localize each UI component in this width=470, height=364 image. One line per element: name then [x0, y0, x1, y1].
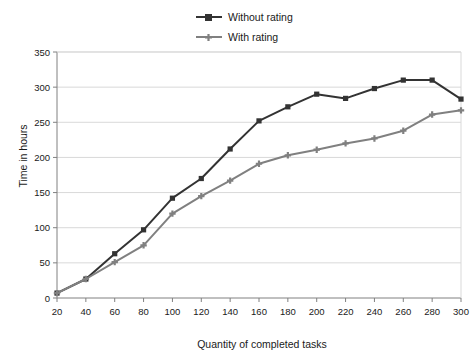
legend-item-without-rating: Without rating: [196, 10, 293, 23]
x-tick-label: 200: [309, 306, 325, 317]
y-tick-label: 100: [34, 222, 50, 233]
x-tick-label: 260: [395, 306, 411, 317]
y-tick-label: 50: [39, 257, 50, 268]
chart-container: Without rating With rating Time in hours…: [0, 0, 470, 364]
data-point-marker: [228, 146, 233, 151]
legend-label-with-rating: With rating: [228, 31, 278, 43]
data-point-marker: [343, 96, 348, 101]
cross-marker-icon: [205, 34, 212, 41]
x-tick-labels-group: 2040608010012014016018020022024026028030…: [52, 306, 469, 317]
data-point-marker: [430, 78, 435, 83]
x-tick-label: 280: [424, 306, 440, 317]
square-marker-icon: [205, 14, 212, 21]
y-tick-label: 300: [34, 82, 50, 93]
y-axis-title: Time in hours: [17, 86, 29, 226]
plot-svg: 050100150200250300350 204060801001201401…: [0, 0, 470, 364]
data-point-marker: [199, 176, 204, 181]
data-point-marker: [372, 86, 377, 91]
chart-legend: Without rating With rating: [196, 10, 293, 43]
x-tick-label: 20: [52, 306, 63, 317]
x-tick-label: 80: [138, 306, 149, 317]
data-point-marker: [314, 146, 320, 152]
data-point-marker: [314, 92, 319, 97]
x-tick-label: 140: [222, 306, 238, 317]
data-point-marker: [458, 96, 463, 101]
x-tick-label: 240: [366, 306, 382, 317]
x-axis-title: Quantity of completed tasks: [57, 338, 467, 350]
x-tick-label: 120: [193, 306, 209, 317]
y-tick-label: 150: [34, 187, 50, 198]
legend-item-with-rating: With rating: [196, 30, 293, 43]
data-point-marker: [256, 118, 261, 123]
y-tick-label: 200: [34, 152, 50, 163]
data-series-group: [54, 78, 464, 297]
x-tick-label: 220: [338, 306, 354, 317]
legend-swatch-without-rating: [196, 11, 222, 23]
data-point-marker: [371, 135, 377, 141]
x-tick-label: 100: [164, 306, 180, 317]
y-tick-label: 0: [45, 293, 50, 304]
legend-swatch-with-rating: [196, 31, 222, 43]
legend-label-without-rating: Without rating: [228, 11, 293, 23]
data-point-marker: [112, 251, 117, 256]
data-point-marker: [285, 104, 290, 109]
y-tick-labels-group: 050100150200250300350: [34, 47, 50, 304]
data-point-marker: [141, 227, 146, 232]
data-point-marker: [170, 196, 175, 201]
x-tick-label: 40: [81, 306, 92, 317]
data-point-marker: [458, 107, 464, 113]
gridlines-group: [57, 52, 461, 263]
series-line: [57, 110, 461, 293]
data-point-marker: [401, 78, 406, 83]
x-tick-label: 180: [280, 306, 296, 317]
x-tick-label: 160: [251, 306, 267, 317]
y-tick-label: 250: [34, 117, 50, 128]
x-tick-label: 60: [109, 306, 120, 317]
y-tick-label: 350: [34, 47, 50, 58]
data-point-marker: [342, 140, 348, 146]
x-tick-label: 300: [453, 306, 469, 317]
